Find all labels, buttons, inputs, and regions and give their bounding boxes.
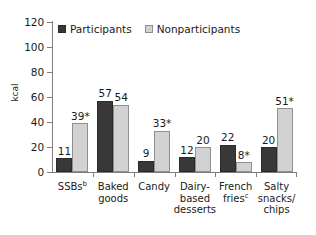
y-axis-tick-label: 120	[24, 17, 44, 28]
bar-value-label: 33*	[149, 118, 175, 129]
y-axis-tick-label: 80	[31, 67, 44, 78]
bar-chart: kcal 020406080100120 ParticipantsNonpart…	[0, 0, 316, 235]
bar-value-label: 8*	[231, 150, 257, 161]
bar-nonparticipants[interactable]	[154, 131, 170, 172]
y-axis-tick-label: 40	[31, 117, 44, 128]
bar-value-label: 22	[215, 132, 241, 143]
bar-participants[interactable]	[56, 158, 72, 172]
bar-nonparticipants[interactable]	[236, 162, 252, 172]
y-axis-tick-label: 0	[37, 167, 44, 178]
bar-group: 5754	[93, 22, 134, 172]
bar-value-label: 51*	[272, 96, 298, 107]
x-axis-tick	[215, 173, 216, 177]
x-axis-label-line: Salty	[252, 181, 301, 193]
x-axis-label-line: chips	[252, 204, 301, 216]
x-axis-tick	[93, 173, 94, 177]
bar-participants[interactable]	[261, 147, 277, 172]
y-axis-tick-label: 60	[31, 92, 44, 103]
footnote-marker: c	[245, 191, 249, 199]
x-axis-label-line: goods	[89, 193, 138, 205]
y-axis-tick-label: 100	[24, 42, 44, 53]
x-axis-label-line: desserts	[171, 204, 220, 216]
y-axis-title: kcal	[11, 70, 20, 116]
x-axis-label-line: snacks/	[252, 193, 301, 205]
bar-group: 2051*	[256, 22, 297, 172]
bar-value-label: 54	[108, 92, 134, 103]
bar-group: 228*	[215, 22, 256, 172]
bar-participants[interactable]	[97, 101, 113, 172]
x-axis-endcap	[296, 172, 297, 177]
x-axis-tick	[175, 173, 176, 177]
bar-value-label: 39*	[67, 111, 93, 122]
x-axis-tick	[256, 173, 257, 177]
y-axis-tick-label: 20	[31, 142, 44, 153]
footnote-marker: b	[83, 180, 87, 188]
bar-nonparticipants[interactable]	[113, 105, 129, 173]
bar-group: 933*	[134, 22, 175, 172]
plot-area: 1139*5754933*1220228*2051*	[52, 22, 297, 172]
x-axis-category-label: Saltysnacks/chips	[252, 181, 301, 216]
bar-value-label: 20	[190, 135, 216, 146]
bar-nonparticipants[interactable]	[277, 108, 293, 172]
bar-participants[interactable]	[138, 161, 154, 172]
bar-nonparticipants[interactable]	[72, 123, 88, 172]
bar-group: 1139*	[52, 22, 93, 172]
bar-group: 1220	[175, 22, 216, 172]
bar-nonparticipants[interactable]	[195, 147, 211, 172]
bar-participants[interactable]	[179, 157, 195, 172]
x-axis-tick	[134, 173, 135, 177]
